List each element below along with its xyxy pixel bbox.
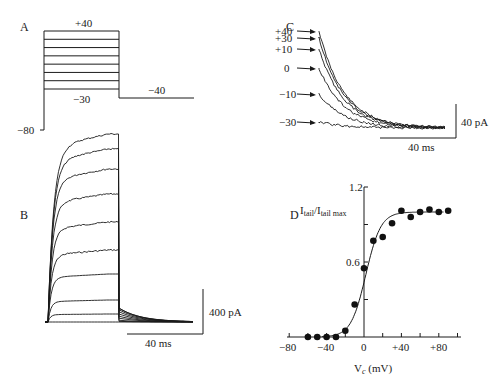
data-point [361, 265, 368, 272]
arrow-icon [310, 120, 316, 125]
arrow-icon [310, 29, 316, 34]
data-point [314, 334, 321, 341]
tail-trace [319, 68, 445, 129]
trace-label: −30 [279, 116, 297, 128]
xtick-0: 0 [361, 341, 367, 353]
data-point [323, 334, 330, 341]
ytick-0-6: 0.6 [346, 256, 360, 268]
panel-d-label: D [290, 208, 299, 222]
data-point [389, 220, 396, 227]
xtick-40: +40 [392, 341, 410, 353]
data-point [333, 334, 340, 341]
x-axis-label: Vc (mV) [354, 362, 392, 376]
trace-label: −10 [279, 88, 297, 100]
panel-b: B 400 pA 40 ms [20, 134, 242, 350]
data-point [426, 206, 433, 213]
boltzmann-fit-curve [322, 212, 444, 337]
data-point [379, 234, 386, 241]
arrow-icon [310, 36, 316, 41]
arrow-icon [310, 92, 316, 97]
panel-a-top-label: +40 [75, 17, 93, 29]
panel-a: A +40 −30 −40 −80 [17, 17, 194, 136]
tail-trace-labels: +40+30+100−10−30 [275, 25, 316, 128]
data-point [445, 207, 452, 214]
y-axis-label: Itail/Itail max [300, 204, 347, 218]
panel-d: D 1.2 0.6 −80 −40 0 +40 +80 Itail/Itail … [279, 181, 461, 376]
data-point [351, 301, 358, 308]
tail-trace [319, 31, 445, 129]
panel-c: C +40+30+100−10−30 40 pA 40 ms [275, 20, 488, 153]
panel-a-label: A [20, 20, 29, 34]
arrow-icon [310, 66, 316, 71]
panel-c-scale-time: 40 ms [408, 141, 435, 153]
panel-c-scale-bar [380, 104, 456, 138]
figure-canvas: A +40 −30 −40 −80 B 400 pA 40 ms C +40+3… [0, 0, 504, 386]
panel-b-scale-bar [127, 289, 203, 334]
panel-c-scale-current: 40 pA [461, 116, 488, 128]
xtick-neg40: −40 [317, 341, 335, 353]
panel-a-bottom-label: −30 [73, 93, 91, 105]
data-points [305, 206, 452, 340]
xtick-80: +80 [430, 341, 448, 353]
protocol-steps [44, 39, 119, 89]
data-point [342, 327, 349, 334]
data-point [398, 207, 405, 214]
trace-label: +10 [275, 43, 293, 55]
tail-trace [319, 94, 445, 129]
xtick-neg80: −80 [279, 341, 297, 353]
panel-b-scale-time: 40 ms [145, 337, 172, 349]
data-point [370, 237, 377, 244]
panel-b-label: B [20, 208, 28, 222]
panel-a-tail-label: −40 [148, 84, 166, 96]
current-traces [45, 134, 193, 323]
trace-label: 0 [284, 62, 290, 74]
tail-trace [319, 49, 445, 128]
ytick-1-2: 1.2 [349, 181, 363, 193]
data-point [417, 209, 424, 216]
arrow-icon [310, 47, 316, 52]
panel-b-scale-current: 400 pA [209, 306, 242, 318]
tail-traces [319, 31, 445, 129]
data-point [436, 209, 443, 216]
panel-a-holding-label: −80 [17, 124, 35, 136]
data-point [407, 214, 414, 221]
data-point [305, 334, 312, 341]
